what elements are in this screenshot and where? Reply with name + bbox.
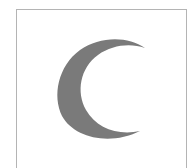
crescent-moon-icon [0,0,195,168]
